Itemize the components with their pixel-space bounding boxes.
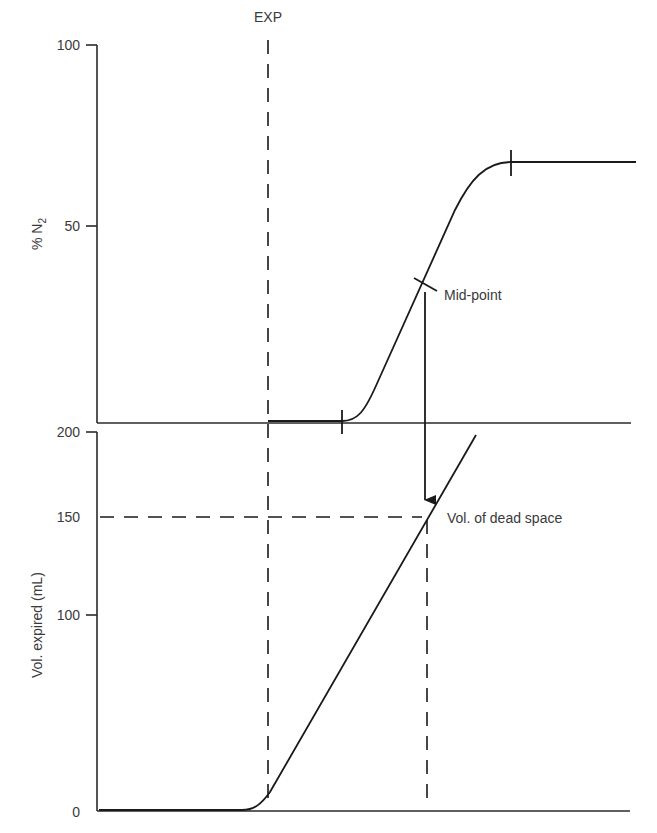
top-y-axis-label: % N2 (29, 218, 48, 250)
bottom-y-tick-label-150: 150 (57, 509, 81, 525)
top-y-tick-label-50: 50 (64, 218, 80, 234)
top-y-tick-label-100: 100 (57, 37, 81, 53)
single-breath-nitrogen-washout-diagram: 100 50 % N2 EXP Mid-point 200 150 100 0 … (0, 0, 657, 833)
bottom-y-tick-label-200: 200 (57, 424, 81, 440)
bottom-y-axis-label: Vol. expired (mL) (29, 572, 45, 678)
svg-text:Vol. expired (mL): Vol. expired (mL) (29, 572, 45, 678)
mid-point-tick (414, 278, 437, 291)
bottom-y-tick-label-100: 100 (57, 607, 81, 623)
top-panel-n2: 100 50 % N2 EXP Mid-point (29, 9, 636, 434)
bottom-panel-volume: 200 150 100 0 Vol. expired (mL) Vol. of … (29, 424, 630, 820)
svg-text:% N2: % N2 (29, 218, 48, 250)
dead-space-label: Vol. of dead space (447, 510, 562, 526)
volume-curve (99, 435, 476, 810)
exp-marker-label: EXP (254, 9, 282, 25)
bottom-y-tick-label-0: 0 (72, 804, 80, 820)
mid-point-label: Mid-point (444, 287, 502, 303)
